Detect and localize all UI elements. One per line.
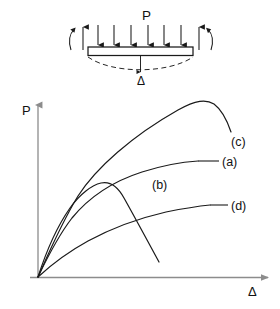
- beam-deflection-label: Δ: [137, 74, 145, 88]
- load-deflection-figure: P Δ P Δ: [0, 0, 280, 309]
- rotation-arrow-icon: [70, 30, 74, 51]
- curve-label-b: (b): [152, 178, 167, 192]
- curve-a: [38, 161, 198, 277]
- curve-c: [38, 101, 231, 277]
- curve-label-a: (a): [222, 155, 237, 169]
- curve-label-c: (c): [231, 135, 246, 149]
- figure-canvas: P Δ P Δ: [0, 0, 280, 309]
- curve-d: [38, 205, 210, 277]
- beam-body: [88, 47, 193, 56]
- curve-b: [38, 183, 159, 277]
- y-axis-label: P: [22, 103, 31, 118]
- x-axis-label: Δ: [248, 284, 257, 299]
- curve-label-d: (d): [231, 199, 246, 213]
- distributed-load-arrows: [98, 25, 181, 45]
- beam-free-body-diagram: P Δ: [70, 8, 213, 88]
- load-deflection-plot: P Δ (a) (b) (c) (d): [22, 101, 268, 299]
- beam-load-label: P: [142, 8, 151, 23]
- rotation-arrow-icon: [208, 30, 212, 51]
